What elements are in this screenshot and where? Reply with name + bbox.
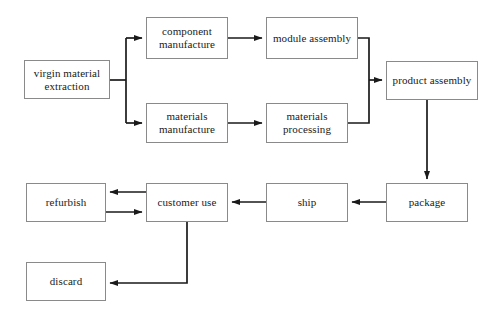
edge-customer-use-to-discard [110, 222, 187, 283]
node-label: ship [295, 196, 320, 209]
node-product-assembly[interactable]: product assembly [386, 61, 478, 100]
node-label: package [406, 196, 449, 209]
edge-module-to-merge [358, 38, 369, 80]
node-refurbish[interactable]: refurbish [26, 183, 106, 222]
flowchart-figure: virgin material extraction component man… [0, 0, 496, 315]
node-label: product assembly [390, 74, 475, 87]
node-label: customer use [155, 196, 220, 209]
node-label: refurbish [43, 196, 90, 209]
node-label: virgin material extraction [31, 67, 103, 93]
node-package[interactable]: package [386, 183, 468, 222]
node-discard[interactable]: discard [26, 262, 106, 301]
node-label: module assembly [270, 32, 354, 45]
edge-processing-to-merge [348, 80, 369, 123]
node-label: materials processing [280, 110, 334, 136]
node-materials-processing[interactable]: materials processing [266, 103, 348, 143]
node-ship[interactable]: ship [266, 183, 348, 222]
node-customer-use[interactable]: customer use [146, 183, 228, 222]
node-virgin-material-extraction[interactable]: virgin material extraction [24, 60, 110, 99]
node-materials-manufacture[interactable]: materials manufacture [146, 103, 228, 143]
node-module-assembly[interactable]: module assembly [266, 17, 358, 59]
node-label: discard [47, 275, 85, 288]
node-component-manufacture[interactable]: component manufacture [146, 17, 228, 59]
node-label: component manufacture [156, 25, 218, 51]
node-label: materials manufacture [156, 110, 218, 136]
